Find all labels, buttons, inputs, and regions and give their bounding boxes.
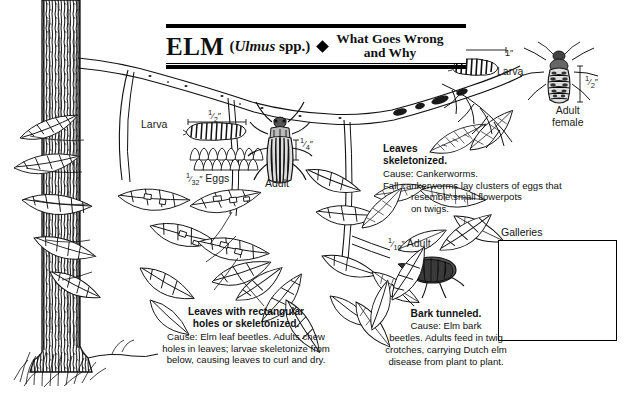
- label-bark-beetle-adult: 1⁄10″ Adult: [388, 237, 431, 252]
- cankerworm-adult-female: [520, 42, 598, 103]
- measurement-larva-left: 1⁄2″: [208, 108, 221, 124]
- measurement-cankerworm-adult: 1⁄2″: [585, 74, 598, 90]
- page-subtitle: What Goes Wrongand Why: [336, 32, 443, 60]
- banner-rule-bottom-thin: [166, 63, 466, 64]
- title-banner: ELM (Ulmus spp.) What Goes Wrongand Why: [166, 24, 466, 68]
- label-larva-left: Larva: [141, 118, 167, 130]
- label-galleries: Galleries: [501, 226, 542, 238]
- caption-cankerworm: Leaves skeletonized. Cause: Cankerworms.…: [383, 143, 627, 215]
- diamond-icon: [316, 40, 329, 53]
- page-title: ELM: [166, 34, 224, 59]
- illustration-page: ELM (Ulmus spp.) What Goes Wrongand Why …: [0, 0, 627, 398]
- measurement-cankerworm-larva: 1″: [505, 48, 513, 58]
- label-cankerworm-larva: Larva: [497, 65, 523, 77]
- measurement-beetle-adult: 1⁄4″: [300, 136, 313, 152]
- label-eggs: 1⁄32″ Eggs: [186, 172, 229, 187]
- elm-leaf-beetle-larva: [183, 123, 246, 141]
- label-beetle-adult: Adult: [265, 177, 289, 189]
- elm-leaf-beetle-eggs: [190, 148, 263, 170]
- banner-rule-top: [166, 24, 466, 28]
- caption-bark-beetle: Bark tunneled. Cause: Elm bark beetles. …: [366, 308, 526, 367]
- banner-rule-bottom: [166, 65, 466, 69]
- label-cankerworm-adult: Adultfemale: [552, 104, 584, 128]
- caption-leaf-beetle: Leaves with rectangular holes or skeleto…: [130, 306, 362, 366]
- scientific-name: (Ulmus spp.): [229, 39, 310, 54]
